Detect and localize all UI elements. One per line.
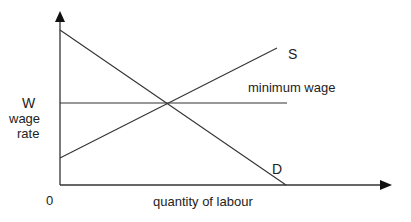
y-axis-arrow-icon — [55, 11, 65, 22]
origin-label: 0 — [46, 194, 53, 207]
demand-label: D — [272, 162, 282, 176]
diagram-svg — [0, 0, 411, 222]
diagram-canvas: W wage rate 0 quantity of labour S D min… — [0, 0, 411, 222]
x-axis-arrow-icon — [380, 180, 392, 190]
demand-curve — [60, 30, 286, 185]
supply-label: S — [288, 47, 297, 61]
x-axis-label: quantity of labour — [153, 195, 253, 208]
minimum-wage-label: minimum wage — [248, 81, 335, 94]
y-axis-label-line2: rate — [17, 127, 39, 140]
y-axis-label-line1: wage — [9, 112, 40, 125]
min-wage-level-label: W — [22, 96, 35, 110]
